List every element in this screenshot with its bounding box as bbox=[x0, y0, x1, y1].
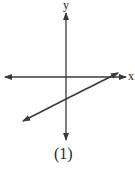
x-axis-label: x bbox=[128, 70, 134, 82]
figure-caption: (1) bbox=[54, 146, 73, 162]
y-axis-label: y bbox=[63, 0, 69, 11]
plotted-line-lower bbox=[23, 97, 70, 121]
